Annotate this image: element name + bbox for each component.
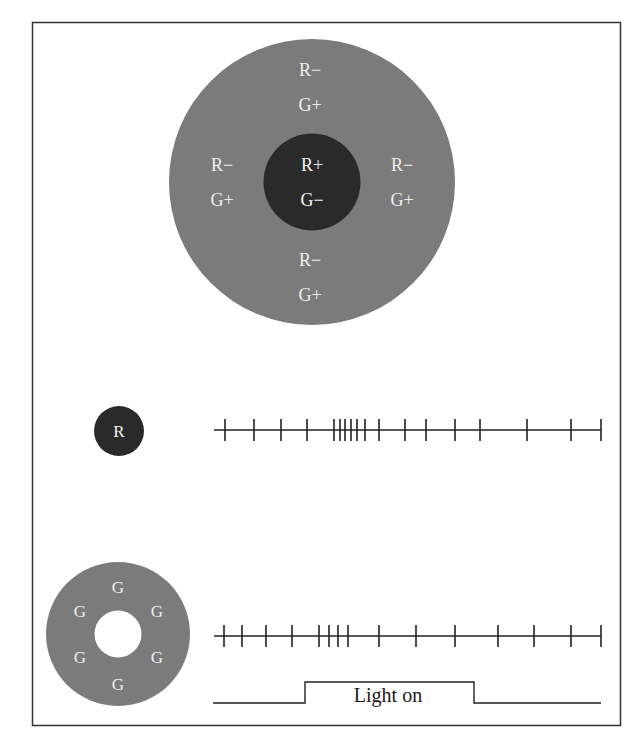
surround-top-label-1: R− — [299, 60, 321, 80]
spike-train-red — [214, 419, 601, 441]
green-annulus-stimulus: G G G G G G — [46, 562, 190, 706]
red-spot-label: R — [113, 422, 125, 441]
annulus-label-upper-right: G — [151, 602, 163, 621]
light-stimulus-trace: Light on — [213, 682, 601, 707]
receptive-field-diagram: R− G+ R− G+ R+ G− R− G+ R− G+ R G G G G … — [0, 0, 638, 752]
annulus-label-upper-left: G — [74, 602, 86, 621]
annulus-label-top: G — [112, 578, 124, 597]
spike-train-green — [214, 625, 601, 647]
center-label-1: R+ — [301, 155, 323, 175]
surround-bottom-label-2: G+ — [298, 285, 321, 305]
surround-right-label-2: G+ — [390, 190, 413, 210]
red-spot-stimulus: R — [94, 406, 144, 456]
surround-bottom-label-1: R− — [299, 250, 321, 270]
annulus-hole — [95, 611, 142, 658]
annulus-label-lower-right: G — [151, 648, 163, 667]
surround-left-label-1: R− — [211, 155, 233, 175]
surround-left-label-2: G+ — [210, 190, 233, 210]
surround-top-label-2: G+ — [298, 95, 321, 115]
annulus-label-lower-left: G — [74, 648, 86, 667]
receptive-field: R− G+ R− G+ R+ G− R− G+ R− G+ — [169, 39, 455, 325]
surround-right-label-1: R− — [391, 155, 413, 175]
annulus-label-bottom: G — [112, 675, 124, 694]
center-region — [264, 134, 361, 231]
center-label-2: G− — [300, 190, 323, 210]
light-on-label: Light on — [354, 684, 422, 707]
